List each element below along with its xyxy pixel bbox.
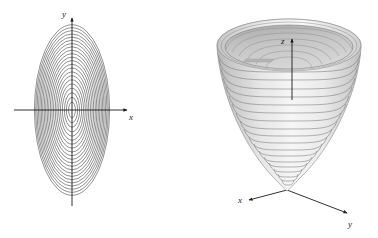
interior-ledge [243, 59, 274, 62]
clipped-header-text [96, 0, 286, 4]
contour-y-axis-label: y [61, 9, 66, 19]
contour-panel: x y [14, 9, 133, 206]
surface-y-axis-label: y [347, 219, 352, 229]
figure-root: x y [0, 0, 378, 238]
math-figure-svg: x y [0, 0, 378, 238]
contour-x-axis-label: x [128, 112, 133, 122]
surface-y-axis [287, 190, 347, 213]
surface-panel: z x y [217, 19, 361, 229]
surface-x-axis-label: x [237, 195, 242, 205]
rim-inner-ellipse [225, 25, 353, 69]
surface-x-axis [249, 190, 287, 200]
surface-z-axis-label: z [280, 36, 285, 46]
